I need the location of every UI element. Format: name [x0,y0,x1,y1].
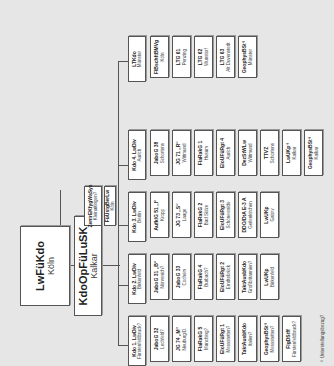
unit-box: FlBschftBMVgKöln [150,36,169,78]
unit-location: Wittmund [248,144,253,163]
unit-box: JaboG 33Cochem [172,254,191,300]
column-head: Kdo 3. LwDivBerlin [128,192,146,242]
org-chart: LwFüKdo Köln KdoOpFüLuSK Kalkar ZentrEKf… [0,0,334,366]
unit-box: JaboG 31 „B“Nörvenich? [150,254,169,300]
column-head: Kdo 4. LwDivAurich [128,130,146,180]
unit-box: FlaRakG 5Manching? [194,316,213,362]
head-location: Berlin [137,211,142,223]
op-box: KdoOpFüLuSK Kalkar [74,216,102,316]
hq-location: Köln [46,257,56,275]
unit-location: Gatow [270,209,275,222]
unit-location: Messstetten? [270,326,275,353]
unit-box: EloUFüRgt 2Erndtebrück [216,254,235,300]
unit-box: GeophysBSt¹⁾Münster [238,36,257,78]
unit-location: Burbach? [204,267,209,286]
staff-box: ZentrEKfygWaSys Kleinaitingen? [84,186,102,226]
unit-location: Laage [182,209,187,222]
column-head: LTKdoMünster [128,36,146,82]
unit-box: TTVZSchortens [260,130,279,176]
unit-box: DezStWLwWittmund [238,130,257,176]
unit-box: LTG 61Penzing [172,36,191,78]
unit-location: Manching? [204,328,209,350]
unit-location: Kropp [160,209,165,221]
unit-location: Schortens [160,143,165,163]
head-location: Münster [137,51,142,67]
unit-location: Neuburg/D. [182,328,187,351]
op-location: Kalkar [89,253,99,279]
staff-box: FüUstgBerLw Köln [104,186,116,226]
unit-box: JG 73 „S“Laage [172,192,191,238]
unit-box: FlaRakG 2Bad Sülze [194,192,213,238]
unit-location: Kalkar [292,147,297,160]
unit-box: JG 71 „R“Wittmund [172,130,191,176]
unit-location: Wunstorf [204,48,209,66]
unit-box: FlgDStffFürstenfeldbruck? [282,316,301,362]
unit-location: Fürstenfeldbruck? [292,321,297,357]
unit-box: EloUFüRgt 4Aurich [216,130,235,176]
unit-location: Penzing [182,49,187,65]
unit-location: Aurich [226,147,231,160]
unit-location: Italien? [248,332,253,347]
unit-box: AufklG 51 „I“Kropp [150,192,169,238]
unit-location: Erndtebrück [226,265,231,289]
head-location: Fürstenfeldbruck? [137,323,142,359]
unit-box: JaboG 38Schortens [150,130,169,176]
staff-location: Köln [110,202,115,211]
unit-location: Bad Sülze [204,205,209,226]
unit-location: Cochem [182,269,187,286]
unit-box: LwUKpGatow [260,192,279,238]
unit-location: Alt Duvenstedt [226,42,231,71]
head-location: Aurich [137,149,142,162]
unit-box: TaktAusbKdoItalien? [238,316,257,362]
unit-box: JaboG 32Lechfeld? [150,316,169,362]
unit-box: GeophysBSt¹⁾Kalkar [304,130,323,176]
unit-location: Geilenkirchen [248,201,253,229]
unit-location: Messstetten? [226,326,231,353]
column-head: Kdo 2. LwDivBirkenfeld [128,254,146,304]
connector [118,62,119,346]
op-name: KdoOpFüLuSK [77,227,90,306]
staff-location: Kleinaitingen? [93,192,98,220]
unit-location: Münster [248,49,253,65]
unit-box: FlaRakG 1Husum [194,130,213,176]
head-location: Birkenfeld [137,269,142,289]
unit-location: Lechfeld? [160,329,165,349]
unit-location: Köln [160,53,165,62]
unit-box: DDO/DtA E-3 AGeilenkirchen [238,192,257,238]
unit-box: LwUKp¹⁾Kalkar [282,130,301,176]
unit-location: Kalkar [314,147,319,160]
hq-name: LwFüKdo [34,241,47,291]
unit-box: FlaRakG 4Burbach? [194,254,213,300]
unit-location: Birkenfeld [270,267,275,287]
unit-box: GeophysBSt¹⁾Messstetten? [260,316,279,362]
unit-location: Wittmund [182,144,187,163]
unit-box: EloUFüRgt 3Schönewalde [216,192,235,238]
footnote: ¹⁾ Unterstellungsbezug? [320,315,325,362]
unit-box: EloUFüRgt 1Messstetten? [216,316,235,362]
column-head: Kdo 1. LwDivFürstenfeldbruck? [128,316,146,366]
unit-location: Großbritannien? [248,261,253,294]
unit-location: Husum [204,146,209,160]
unit-box: LwUKpBirkenfeld [260,254,279,300]
unit-location: Nörvenich? [160,266,165,289]
unit-box: JG 74 „M“Neuburg/D. [172,316,191,362]
unit-box: LTG 62Wunstorf [194,36,213,78]
unit-box: LTG 63Alt Duvenstedt [216,36,235,78]
hq-box: LwFüKdo Köln [20,226,70,306]
unit-box: TaktAusbKdoGroßbritannien? [238,254,257,300]
unit-location: Schortens [270,143,275,163]
unit-location: Schönewalde [226,201,231,228]
